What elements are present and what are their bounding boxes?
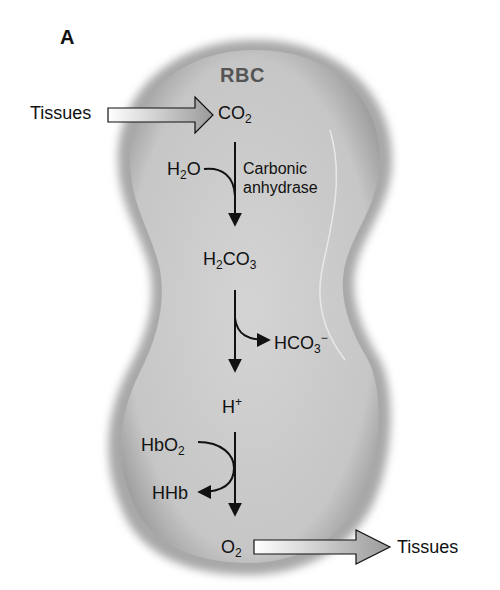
- hbo2-label: HbO2: [141, 436, 185, 457]
- o2-label: O2: [221, 538, 242, 559]
- enzyme-label: Carbonicanhydrase: [243, 159, 318, 197]
- outflow-destination-label: Tissues: [397, 538, 458, 556]
- cell-label: RBC: [220, 64, 265, 87]
- rbc-cell-diagram: [0, 0, 500, 590]
- h2co3-label: H2CO3: [203, 250, 256, 271]
- proton-label: H+: [222, 396, 242, 416]
- hhb-label: HHb: [152, 484, 188, 502]
- inflow-source-label: Tissues: [30, 104, 91, 122]
- co2-label: CO2: [218, 104, 252, 125]
- hco3-label: HCO3−: [274, 332, 328, 355]
- h2o-label: H2O: [167, 160, 201, 181]
